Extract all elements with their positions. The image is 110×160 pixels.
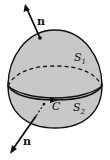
label-curve-c: C — [52, 100, 61, 113]
surfaces-diagram: n S1 C S2 n — [0, 0, 110, 160]
label-normal-bottom: n — [23, 135, 31, 148]
surface-s1 — [8, 30, 102, 98]
label-normal-top: n — [37, 15, 45, 28]
